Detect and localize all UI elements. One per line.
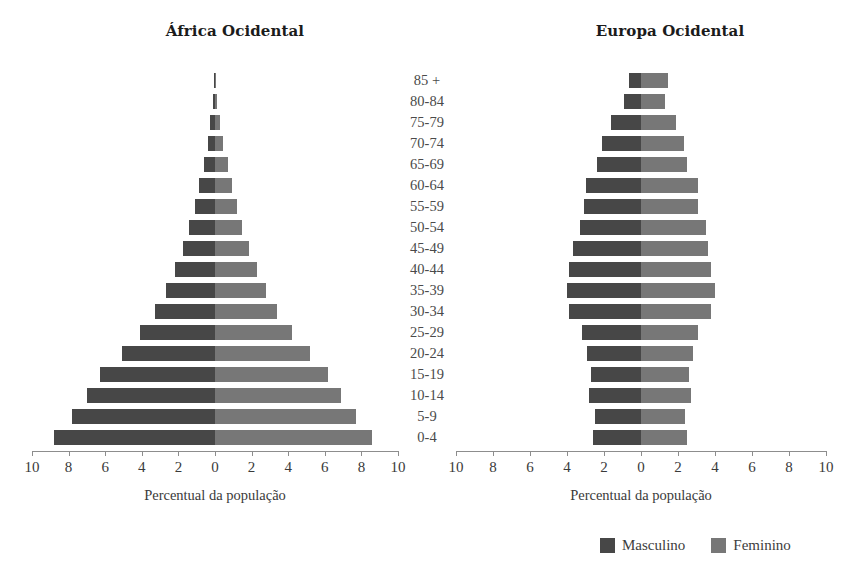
legend-item-feminino: Feminino: [711, 537, 791, 554]
bar-female-5054: [215, 220, 242, 235]
axis-tick-label: 10: [806, 459, 846, 476]
bar-female-2024: [215, 346, 310, 361]
chart-panel-europa-ocidental: Percentual da população 1086420246810: [456, 70, 826, 462]
age-group-label: 15-19: [398, 364, 456, 385]
pyramid-row: [456, 112, 826, 133]
axis-tick-label: 10: [12, 459, 52, 476]
age-group-label: 80-84: [398, 91, 456, 112]
pyramid-row: [32, 427, 398, 448]
pyramid-row: [32, 301, 398, 322]
axis-tick: [641, 451, 642, 456]
pyramid-row: [456, 406, 826, 427]
bar-male-3034: [155, 304, 215, 319]
axis-tick-label: 6: [85, 459, 125, 476]
axis-title-europa: Percentual da população: [456, 487, 826, 504]
axis-tick: [715, 451, 716, 456]
pyramid-row: [456, 133, 826, 154]
panel-title-left: África Ocidental: [110, 22, 360, 40]
pyramid-row: [456, 70, 826, 91]
pyramid-row: [32, 343, 398, 364]
bar-female-8084: [215, 94, 217, 109]
x-axis-africa-ocidental: Percentual da população 1086420246810: [32, 451, 398, 463]
axis-tick: [32, 451, 33, 456]
pyramid-row: [456, 196, 826, 217]
bar-male-1014: [589, 388, 641, 403]
bar-female-3539: [215, 283, 266, 298]
age-group-labels: 85 +80-8475-7970-7465-6960-6455-5950-544…: [398, 70, 456, 448]
age-group-label: 10-14: [398, 385, 456, 406]
axis-tick: [530, 451, 531, 456]
axis-tick: [604, 451, 605, 456]
legend-item-masculino: Masculino: [600, 537, 685, 554]
bar-female-1519: [641, 367, 689, 382]
age-group-label: 0-4: [398, 427, 456, 448]
bars-europa-ocidental: [456, 70, 826, 448]
bar-female-85+: [641, 73, 668, 88]
bar-male-3034: [569, 304, 641, 319]
axis-tick: [493, 451, 494, 456]
bar-male-3539: [166, 283, 215, 298]
bar-male-5054: [189, 220, 215, 235]
bar-female-7579: [215, 115, 220, 130]
axis-tick: [361, 451, 362, 456]
pyramid-row: [32, 70, 398, 91]
axis-tick-label: 0: [195, 459, 235, 476]
pyramid-row: [32, 280, 398, 301]
axis-tick-label: 4: [695, 459, 735, 476]
bar-male-4549: [573, 241, 641, 256]
age-group-label: 30-34: [398, 301, 456, 322]
pyramid-row: [32, 322, 398, 343]
age-group-label: 40-44: [398, 259, 456, 280]
pyramid-row: [32, 196, 398, 217]
pyramid-row: [456, 259, 826, 280]
pyramid-row: [456, 175, 826, 196]
axis-tick-label: 10: [378, 459, 418, 476]
bar-female-4549: [641, 241, 708, 256]
bar-female-5559: [215, 199, 237, 214]
axis-tick-label: 2: [158, 459, 198, 476]
bar-female-59: [215, 409, 356, 424]
bar-male-4549: [183, 241, 215, 256]
axis-tick-label: 4: [547, 459, 587, 476]
axis-tick: [142, 451, 143, 456]
axis-tick-label: 8: [769, 459, 809, 476]
age-group-label: 35-39: [398, 280, 456, 301]
bar-male-1519: [100, 367, 215, 382]
bar-male-59: [595, 409, 641, 424]
pyramid-row: [456, 217, 826, 238]
pyramid-row: [32, 385, 398, 406]
axis-tick-label: 6: [305, 459, 345, 476]
age-group-label: 70-74: [398, 133, 456, 154]
bar-male-6569: [597, 157, 641, 172]
bar-female-5559: [641, 199, 698, 214]
age-group-label: 60-64: [398, 175, 456, 196]
bar-female-1519: [215, 367, 328, 382]
bar-female-2529: [215, 325, 292, 340]
bar-female-6064: [215, 178, 232, 193]
pyramid-row: [32, 364, 398, 385]
legend-swatch-icon: [711, 538, 726, 553]
pyramid-row: [32, 91, 398, 112]
bar-female-7074: [215, 136, 223, 151]
age-group-label: 5-9: [398, 406, 456, 427]
bar-male-2024: [587, 346, 641, 361]
pyramid-row: [456, 364, 826, 385]
legend-swatch-icon: [600, 538, 615, 553]
pyramid-row: [456, 280, 826, 301]
axis-tick-label: 4: [122, 459, 162, 476]
axis-tick: [252, 451, 253, 456]
bar-female-8084: [641, 94, 665, 109]
bar-female-3539: [641, 283, 715, 298]
bar-female-4044: [215, 262, 257, 277]
bar-male-59: [72, 409, 215, 424]
bar-male-2024: [122, 346, 215, 361]
bar-male-8084: [624, 94, 641, 109]
bar-male-5559: [195, 199, 215, 214]
pyramid-row: [32, 175, 398, 196]
axis-tick-label: 8: [473, 459, 513, 476]
bar-male-1519: [591, 367, 641, 382]
axis-tick: [325, 451, 326, 456]
bar-male-04: [54, 430, 215, 445]
bar-male-2529: [140, 325, 215, 340]
axis-tick: [398, 451, 399, 456]
